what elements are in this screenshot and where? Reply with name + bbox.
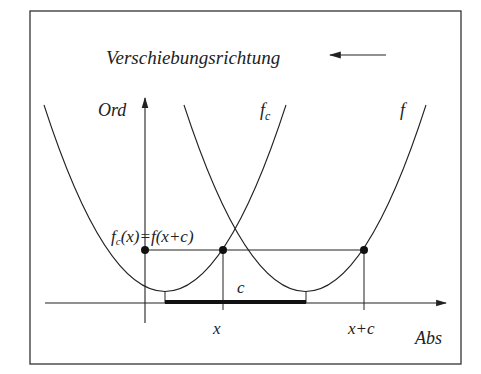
abscissa-label: Abs: [414, 328, 442, 348]
curve-fc-label: fc: [260, 100, 271, 123]
tick-x-plus-c: x+c: [347, 319, 375, 338]
curve-f-label: f: [400, 100, 408, 120]
tick-x: x: [212, 319, 221, 338]
ordinate-label: Ord: [98, 100, 127, 120]
shift-label: c: [237, 278, 245, 297]
point-ord: [141, 246, 149, 254]
direction-title: Verschiebungsrichtung: [106, 47, 280, 68]
point-x: [219, 246, 227, 254]
curve-f: [184, 105, 426, 292]
curve-fc: [44, 105, 286, 292]
point-xc: [360, 246, 368, 254]
shift-diagram: Verschiebungsrichtung Ord Abs fc f fc(x)…: [0, 0, 481, 374]
equation-label: fc(x)=f(x+c): [111, 227, 194, 247]
